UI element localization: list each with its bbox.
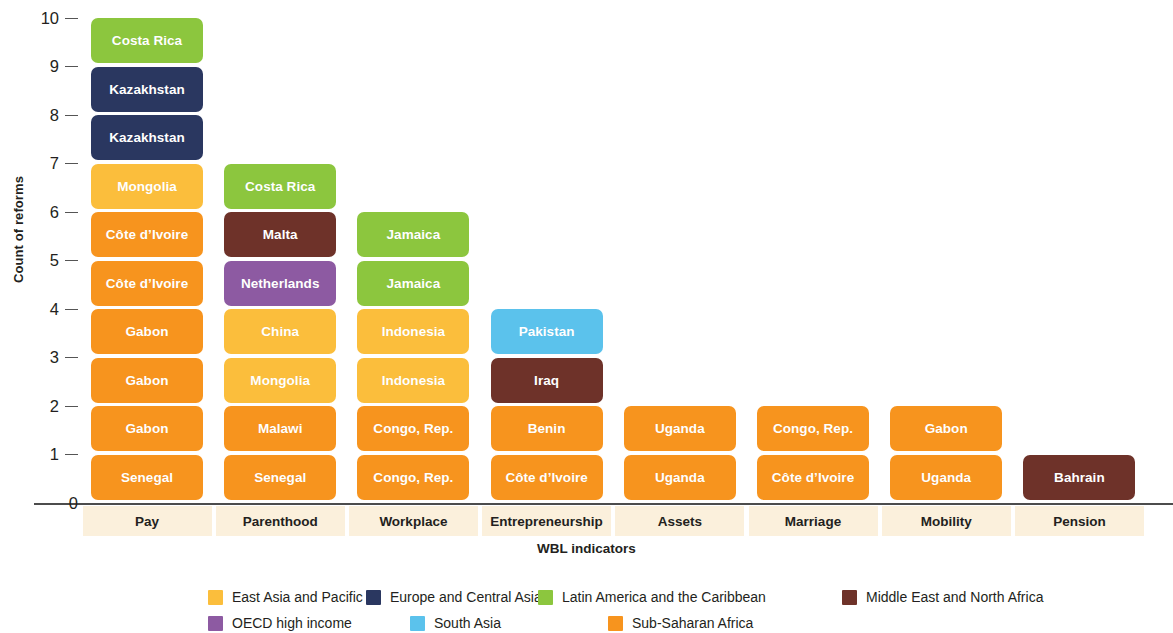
bar-stack-pay: SenegalGabonGabonGabonCôte d’IvoireCôte …: [91, 0, 203, 503]
bar-segment: Congo, Rep.: [757, 406, 869, 451]
bar-segment: Benin: [491, 406, 603, 451]
y-axis-tick-7: 7: [22, 156, 78, 172]
bar-segment: Congo, Rep.: [357, 455, 469, 500]
y-axis-tick-mark: [65, 18, 78, 19]
bar-segment: Côte d’Ivoire: [91, 212, 203, 257]
y-axis-tick-label: 9: [50, 58, 59, 75]
legend-item[interactable]: East Asia and Pacific: [208, 586, 363, 608]
bar-segment: Senegal: [91, 455, 203, 500]
bar-segment: Gabon: [91, 358, 203, 403]
y-axis-tick-label: 10: [41, 10, 59, 27]
bar-segment: Uganda: [624, 406, 736, 451]
x-axis-category-label: Assets: [615, 506, 744, 536]
bar-stack-parenthood: SenegalMalawiMongoliaChinaNetherlandsMal…: [224, 0, 336, 503]
legend-swatch-icon: [842, 590, 857, 605]
bar-segment: Congo, Rep.: [357, 406, 469, 451]
y-axis-tick-mark: [65, 406, 78, 407]
legend-item[interactable]: Latin America and the Caribbean: [538, 586, 766, 608]
bar-segment: Kazakhstan: [91, 67, 203, 112]
bar-stack-pension: Bahrain: [1023, 0, 1135, 503]
y-axis-tick-label: 6: [50, 204, 59, 221]
legend-label: South Asia: [434, 616, 501, 630]
x-axis-category-label: Marriage: [749, 506, 878, 536]
bar-stack-marriage: Côte d’IvoireCongo, Rep.: [757, 0, 869, 503]
x-axis-category-label: Parenthood: [216, 506, 345, 536]
bar-segment: Senegal: [224, 455, 336, 500]
bar-segment: Jamaica: [357, 261, 469, 306]
legend-item[interactable]: Sub-Saharan Africa: [608, 612, 753, 633]
y-axis-tick-mark: [65, 309, 78, 310]
legend-label: Sub-Saharan Africa: [632, 616, 753, 630]
legend-item[interactable]: OECD high income: [208, 612, 352, 633]
legend-swatch-icon: [208, 590, 223, 605]
x-axis-title: WBL indicators: [0, 541, 1173, 556]
bar-segment: Pakistan: [491, 309, 603, 354]
y-axis-tick-9: 9: [22, 59, 78, 75]
y-axis-tick-label: 3: [50, 349, 59, 366]
y-axis-tick-mark: [65, 66, 78, 67]
bar-segment: Gabon: [890, 406, 1002, 451]
bar-stack-mobility: UgandaGabon: [890, 0, 1002, 503]
bar-segment: Côte d’Ivoire: [757, 455, 869, 500]
bar-segment: Mongolia: [224, 358, 336, 403]
plot-area: 012345678910SenegalGabonGabonGabonCôte d…: [0, 0, 1173, 633]
y-axis-tick-3: 3: [22, 350, 78, 366]
bar-segment: Côte d’Ivoire: [491, 455, 603, 500]
legend-swatch-icon: [608, 616, 623, 631]
x-axis-category-label: Entrepreneurship: [482, 506, 611, 536]
bar-segment: China: [224, 309, 336, 354]
bar-segment: Côte d’Ivoire: [91, 261, 203, 306]
x-axis-category-label: Pension: [1015, 506, 1144, 536]
y-axis-tick-label: 1: [50, 446, 59, 463]
y-axis-tick-1: 1: [22, 447, 78, 463]
legend-swatch-icon: [538, 590, 553, 605]
bar-segment: Indonesia: [357, 309, 469, 354]
y-axis-tick-6: 6: [22, 204, 78, 220]
legend-label: Latin America and the Caribbean: [562, 590, 766, 604]
legend-item[interactable]: Middle East and North Africa: [842, 586, 1043, 608]
bar-segment: Iraq: [491, 358, 603, 403]
x-axis-baseline: [34, 503, 1173, 505]
y-axis-tick-10: 10: [22, 10, 78, 26]
y-axis-tick-0: 0: [22, 495, 78, 511]
legend-swatch-icon: [208, 616, 223, 631]
y-axis-tick-2: 2: [22, 398, 78, 414]
y-axis-tick-5: 5: [22, 253, 78, 269]
y-axis-tick-label: 4: [50, 301, 59, 318]
bar-segment: Uganda: [624, 455, 736, 500]
bar-segment: Kazakhstan: [91, 115, 203, 160]
y-axis-tick-mark: [65, 115, 78, 116]
bar-segment: Costa Rica: [224, 164, 336, 209]
legend-label: OECD high income: [232, 616, 352, 630]
legend-item[interactable]: Europe and Central Asia: [366, 586, 542, 608]
legend-label: Middle East and North Africa: [866, 590, 1043, 604]
bar-segment: Jamaica: [357, 212, 469, 257]
legend-swatch-icon: [366, 590, 381, 605]
x-axis-category-label: Pay: [83, 506, 212, 536]
x-axis-category-label: Mobility: [882, 506, 1011, 536]
legend-label: Europe and Central Asia: [390, 590, 542, 604]
y-axis-tick-label: 2: [50, 398, 59, 415]
bar-stack-workplace: Congo, Rep.Congo, Rep.IndonesiaIndonesia…: [357, 0, 469, 503]
legend-row: OECD high incomeSouth AsiaSub-Saharan Af…: [208, 612, 1008, 633]
bar-stack-entrepreneurship: Côte d’IvoireBeninIraqPakistan: [491, 0, 603, 503]
legend-item[interactable]: South Asia: [410, 612, 501, 633]
y-axis-tick-label: 8: [50, 107, 59, 124]
legend-label: East Asia and Pacific: [232, 590, 363, 604]
y-axis-tick-4: 4: [22, 301, 78, 317]
y-axis-tick-label: 0: [69, 495, 78, 512]
y-axis-tick-mark: [65, 212, 78, 213]
stacked-bar-chart: Count of reforms 012345678910SenegalGabo…: [0, 0, 1173, 633]
y-axis-tick-label: 7: [50, 155, 59, 172]
y-axis-tick-label: 5: [50, 252, 59, 269]
x-axis-category-label: Workplace: [349, 506, 478, 536]
bar-stack-assets: UgandaUganda: [624, 0, 736, 503]
y-axis-tick-mark: [65, 454, 78, 455]
legend-row: East Asia and PacificEurope and Central …: [208, 586, 1008, 608]
y-axis-tick-mark: [65, 163, 78, 164]
bar-segment: Malta: [224, 212, 336, 257]
bar-segment: Bahrain: [1023, 455, 1135, 500]
bar-segment: Gabon: [91, 406, 203, 451]
bar-segment: Gabon: [91, 309, 203, 354]
y-axis-tick-mark: [65, 260, 78, 261]
